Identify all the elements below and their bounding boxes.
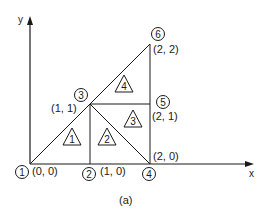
element-number: 2 [104, 134, 110, 145]
y-axis-label: y [18, 14, 23, 25]
node-coord-label: (1, 1) [51, 102, 77, 114]
mesh-edges [30, 44, 150, 164]
node-number: 2 [86, 169, 92, 180]
node-coord-label: (2, 2) [153, 43, 179, 55]
node-number: 3 [78, 90, 84, 101]
node-2: 2 (1, 0) [83, 165, 126, 181]
node-5: 5 (2, 1) [152, 96, 178, 123]
element-1: 1 [63, 128, 81, 145]
node-6: 6 (2, 2) [152, 28, 179, 56]
node-4: 4 (2, 0) [143, 150, 179, 181]
axes: x y [18, 14, 254, 179]
node-3: 3 (1, 1) [51, 89, 88, 115]
element-4: 4 [115, 75, 133, 92]
node-number: 6 [155, 29, 161, 40]
node-coord-label: (2, 1) [152, 110, 178, 122]
element-3: 3 [124, 110, 142, 127]
node-coord-label: (0, 0) [32, 165, 58, 177]
figure-caption: (a) [119, 194, 132, 206]
edge-3-4 [90, 104, 150, 164]
element-2: 2 [98, 128, 116, 145]
node-number: 4 [146, 169, 152, 180]
node-number: 5 [160, 97, 166, 108]
element-number: 3 [130, 116, 136, 127]
node-1: 1 (0, 0) [16, 165, 58, 179]
element-number: 4 [121, 81, 127, 92]
y-axis-arrow-icon [27, 16, 33, 25]
node-coord-label: (2, 0) [153, 150, 179, 162]
x-axis-label: x [249, 168, 254, 179]
element-number: 1 [69, 134, 75, 145]
node-coord-label: (1, 0) [100, 165, 126, 177]
finite-element-mesh-diagram: x y 1 (0, 0) 2 (1, 0) 3 (1, 1) 4 (2, 0) … [0, 0, 270, 217]
x-axis-arrow-icon [245, 161, 254, 167]
node-number: 1 [19, 167, 25, 178]
